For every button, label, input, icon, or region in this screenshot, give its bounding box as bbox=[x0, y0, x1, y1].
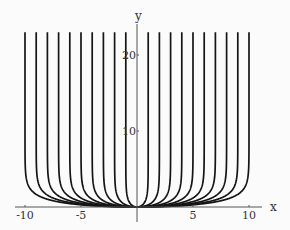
x-axis-label: x bbox=[270, 200, 277, 214]
y-ticks: 1020 bbox=[122, 49, 139, 138]
y-tick-label: 10 bbox=[122, 125, 136, 138]
curve-a-1 bbox=[137, 32, 148, 207]
y-axis-label: y bbox=[134, 9, 142, 23]
y-tick-label: 20 bbox=[122, 49, 136, 62]
x-tick-label: 5 bbox=[190, 209, 197, 222]
x-tick-label: -5 bbox=[76, 209, 87, 222]
x-tick-label: -10 bbox=[16, 209, 34, 222]
chart: -10-5510 1020 x y bbox=[0, 0, 290, 230]
curve-a-5 bbox=[137, 32, 193, 207]
curve-a-9 bbox=[137, 32, 238, 207]
curve-a-3 bbox=[137, 32, 171, 207]
x-tick-label: 10 bbox=[242, 209, 256, 222]
